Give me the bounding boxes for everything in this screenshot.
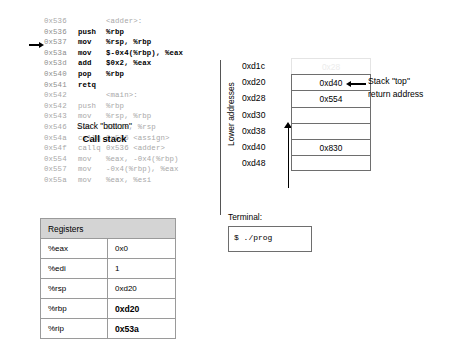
code-address: 0x542 [44,101,78,112]
assembly-listing: 0x536<adder>:0x536push%rbp0x537mov%rsp, … [44,16,194,186]
registers-table-header-label: Registers [41,219,176,239]
register-row: %edi1 [41,259,176,279]
code-line: 0x536<adder>: [44,16,194,27]
terminal-label: Terminal: [228,212,262,222]
code-mnemonic: push [78,27,106,38]
register-row: %eax0x0 [41,239,176,259]
code-address: 0x557 [44,164,78,175]
code-mnemonic: mov [78,48,106,59]
register-row: %rsp0xd20 [41,279,176,299]
code-mnemonic: mov [78,175,106,186]
code-line: 0x542<main>: [44,90,194,101]
registers-table-header-row: Registers [41,219,176,239]
code-operands: %rbp [106,70,124,78]
code-operands: $0x2, %eax [106,59,151,67]
code-line: 0x53dadd$0x2, %eax [44,58,194,69]
code-mnemonic: callq [78,143,106,154]
terminal-window[interactable]: $ ./prog [228,226,312,252]
code-address: 0x554 [44,154,78,165]
call-stack-title: Call stack [52,133,157,144]
register-value: 0x0 [108,239,176,259]
stack-address-label: 0xd48 [242,155,286,171]
code-operands: %rsp, %rbp [106,38,151,46]
stack-address-label: 0xd30 [242,107,286,123]
code-line: 0x54fcallq0x536 <adder> [44,143,194,154]
stack-cell [291,123,371,139]
code-address: 0x536 [44,27,78,38]
arrow-head [346,81,351,87]
code-line: 0x536push%rbp [44,27,194,38]
arrow-head [39,42,44,48]
code-line: 0x542push%rbp [44,101,194,112]
register-value: 1 [108,259,176,279]
code-operands: %rbp [106,28,124,36]
code-operands: 0x536 <adder> [106,144,165,152]
stack-cell [291,107,371,123]
code-mnemonic: mov [78,154,106,165]
register-row: %rip0x53a [41,319,176,339]
arrow-shaft [288,127,290,188]
register-value: 0xd20 [108,279,176,299]
panel-divider [220,60,221,215]
code-operands: %eax, -0x4(%rbp) [106,155,179,163]
code-line: 0x557mov-0x4(%rbp), %eax [44,164,194,175]
stack-address-label: 0xd1c [242,58,286,74]
register-value: 0xd20 [108,299,176,319]
code-mnemonic: pop [78,69,106,80]
stack-cell: 0x554 [291,90,371,106]
registers-table: Registers %eax0x0%edi1%rsp0xd20%rbp0xd20… [40,218,176,339]
code-line: 0x537mov%rsp, %rbp [44,37,194,48]
code-operands: %eax, %esi [106,176,151,184]
code-line: 0x53amov$-0x4(%rbp), %eax [44,48,194,59]
code-mnemonic: mov [78,37,106,48]
code-mnemonic: push [78,101,106,112]
code-line: 0x554mov%eax, -0x4(%rbp) [44,154,194,165]
code-line: 0x55amov%eax, %esi [44,175,194,186]
code-operands: <adder>: [106,17,142,25]
stack-address-label: 0xd20 [242,74,286,90]
code-address: 0x541 [44,80,78,91]
code-operands: <main>: [106,91,138,99]
registers-table-body: Registers %eax0x0%edi1%rsp0xd20%rbp0xd20… [41,219,176,339]
code-address: 0x53d [44,58,78,69]
stack-top-label: Stack "top" [368,76,423,86]
register-row: %rbp0xd20 [41,299,176,319]
code-address: 0x542 [44,90,78,101]
register-name: %rbp [41,299,108,319]
code-operands: %rsp, %rbp [106,112,151,120]
register-value: 0x53a [108,319,176,339]
code-address: 0x55a [44,175,78,186]
code-address: 0x53a [44,48,78,59]
stack-address-column: 0xd1c0xd200xd280xd300xd380xd400xd48 [242,58,286,171]
stack-cells: 0x280xd400x5540x830 [291,58,371,171]
instruction-pointer-arrow-icon [29,42,44,49]
arrow-shaft [351,83,366,85]
stack-address-label: 0xd40 [242,139,286,155]
register-name: %rip [41,319,108,339]
terminal-command-line: $ ./prog [229,227,311,242]
code-operands: $-0x4(%rbp), %eax [106,49,183,57]
register-name: %edi [41,259,108,279]
code-operands: %rbp [106,102,124,110]
code-address: 0x537 [44,37,78,48]
stack-bottom-caption: Stack "bottom" [52,121,157,131]
code-mnemonic: add [78,58,106,69]
code-mnemonic: retq [78,80,106,91]
lower-addresses-axis-label: Lower addresses [226,82,236,146]
code-address: 0x540 [44,69,78,80]
code-line: 0x540pop%rbp [44,69,194,80]
code-line: 0x541retq [44,80,194,91]
stack-cell: 0x28 [291,58,371,74]
stack-address-label: 0xd38 [242,123,286,139]
return-address-label: return address [368,89,423,99]
stack-cell [291,155,371,171]
stack-address-label: 0xd28 [242,90,286,106]
code-operands: -0x4(%rbp), %eax [106,165,179,173]
stack-top-arrow-icon [346,81,366,88]
register-name: %eax [41,239,108,259]
stack-top-annotation: Stack "top" return address [368,76,423,99]
code-address: 0x54f [44,143,78,154]
code-mnemonic: mov [78,164,106,175]
code-address: 0x536 [44,16,78,27]
register-name: %rsp [41,279,108,299]
